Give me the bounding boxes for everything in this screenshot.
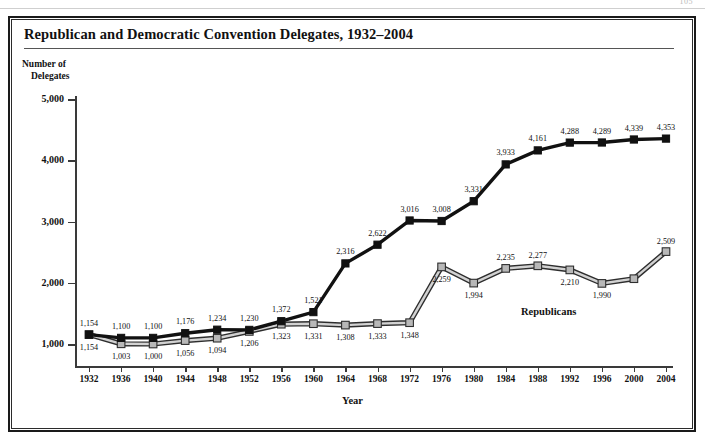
data-point-marker xyxy=(85,331,92,338)
series-line xyxy=(89,139,666,338)
data-point-marker xyxy=(342,260,349,267)
data-point-marker xyxy=(181,337,189,345)
data-point-label: 2,622 xyxy=(358,229,398,238)
data-point-marker xyxy=(374,320,382,328)
data-point-label: 2,316 xyxy=(325,247,365,256)
plot-area: 1,0002,0003,0004,0005,000 19321936194019… xyxy=(0,0,705,442)
data-point-marker xyxy=(534,147,541,154)
data-point-marker xyxy=(502,265,510,273)
data-point-label: 4,161 xyxy=(518,134,558,143)
data-point-marker xyxy=(310,309,317,316)
data-point-marker xyxy=(470,279,478,287)
data-point-marker xyxy=(438,217,445,224)
legend-label-republicans: Republicans xyxy=(521,306,576,317)
data-point-marker xyxy=(213,334,221,342)
data-point-marker xyxy=(662,135,669,142)
series-lines xyxy=(0,0,705,442)
data-point-label: 3,933 xyxy=(486,148,526,157)
data-point-label: 1,230 xyxy=(229,314,269,323)
data-point-marker xyxy=(630,136,637,143)
data-point-marker xyxy=(630,275,638,283)
data-point-marker xyxy=(534,262,542,270)
data-point-label: 2,210 xyxy=(550,278,590,287)
x-axis-title: Year xyxy=(0,395,705,406)
data-point-marker xyxy=(310,320,318,328)
data-point-marker xyxy=(662,248,670,256)
data-point-label: 2,277 xyxy=(518,251,558,260)
data-point-label: 1,990 xyxy=(582,291,622,300)
data-point-marker xyxy=(342,321,350,329)
data-point-marker xyxy=(246,326,253,333)
data-point-marker xyxy=(182,330,189,337)
data-point-marker xyxy=(502,161,509,168)
data-point-marker xyxy=(150,334,157,341)
data-point-label: 2,259 xyxy=(422,275,462,284)
data-point-marker xyxy=(278,318,285,325)
data-point-label: 1,994 xyxy=(454,291,494,300)
series-line xyxy=(89,252,666,344)
data-point-marker xyxy=(374,241,381,248)
data-point-label: 4,353 xyxy=(646,123,686,132)
data-point-marker xyxy=(598,139,605,146)
data-point-marker xyxy=(566,139,573,146)
data-point-marker xyxy=(598,280,606,288)
data-point-label: 3,008 xyxy=(422,205,462,214)
data-point-marker xyxy=(118,334,125,341)
series-line xyxy=(89,252,666,344)
data-point-label: 1,348 xyxy=(390,331,430,340)
data-point-label: 1,154 xyxy=(69,343,109,352)
data-point-label: 3,331 xyxy=(454,185,494,194)
data-point-marker xyxy=(470,198,477,205)
data-point-label: 1,372 xyxy=(261,305,301,314)
data-point-marker xyxy=(406,319,414,327)
data-point-marker xyxy=(566,266,574,274)
data-point-marker xyxy=(214,326,221,333)
chart-page: 105 Republican and Democratic Convention… xyxy=(0,0,705,442)
data-point-label: 1,521 xyxy=(293,296,333,305)
data-point-marker xyxy=(438,263,446,271)
data-point-marker xyxy=(406,217,413,224)
data-point-label: 2,509 xyxy=(646,237,686,246)
